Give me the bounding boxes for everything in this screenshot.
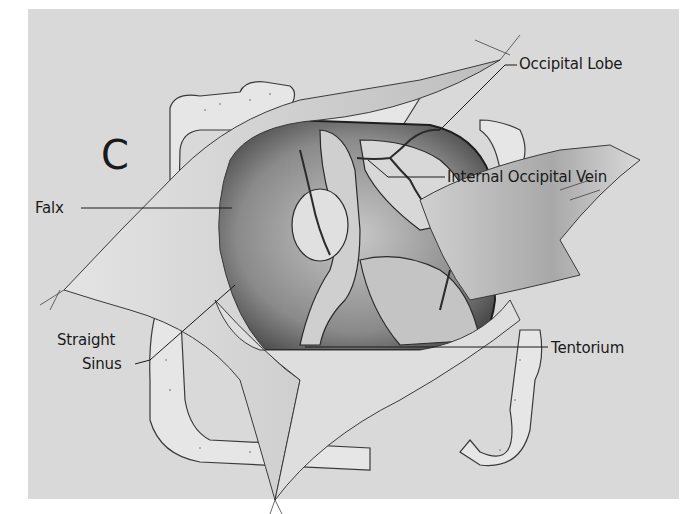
label-straight-sinus-line1: Straight [57,332,115,348]
label-occipital-lobe: Occipital Lobe [519,56,622,72]
label-tentorium: Tentorium [551,340,624,356]
label-straight-sinus-line2: Sinus [82,356,122,372]
panel-letter: C [101,133,129,177]
label-falx: Falx [35,200,64,216]
anatomical-illustration [0,0,696,514]
label-internal-occipital-vein: Internal Occipital Vein [447,169,607,185]
